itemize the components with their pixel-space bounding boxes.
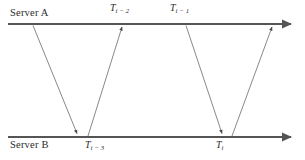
timeline-label-server-b: Server B [10,139,49,150]
message-a-to-b-first [33,26,77,134]
timestamp-label-t-i: Ti [216,139,224,151]
timestamp-label-t-i-3: Ti − 3 [85,139,104,151]
timing-diagram: Server A Server B Ti − 2 Ti − 1 Ti − 3 T… [0,0,305,160]
timestamp-subscript-t-i-3: i − 3 [91,144,105,151]
message-b-to-a-second [232,27,272,136]
message-a-to-b-second [186,26,222,134]
timeline-label-server-a: Server A [10,7,49,18]
message-b-to-a-first [88,27,122,136]
diagram-canvas [0,0,305,160]
timestamp-subscript-t-i-1: i − 1 [176,7,190,14]
timestamp-label-t-i-1: Ti − 1 [170,2,189,14]
timestamp-label-t-i-2: Ti − 2 [110,2,129,14]
timestamp-subscript-t-i-2: i − 2 [116,7,130,14]
timestamp-subscript-t-i: i [222,144,224,151]
